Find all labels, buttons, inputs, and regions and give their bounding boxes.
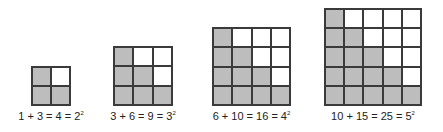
blank-cell (153, 66, 172, 85)
shaded-cell (213, 28, 232, 47)
blank-cell (51, 67, 70, 86)
blank-cell (363, 28, 382, 47)
shaded-cell (363, 67, 382, 86)
equation-label-2: 1 + 3 = 4 = 22 (18, 110, 83, 122)
shaded-cell (32, 67, 51, 86)
shaded-cell (325, 67, 344, 86)
blank-cell (402, 47, 421, 66)
blank-cell (252, 47, 271, 66)
equation-label-3: 3 + 6 = 9 = 32 (110, 110, 175, 122)
exponent: 2 (287, 110, 290, 116)
blank-cell (383, 28, 402, 47)
blank-cell (402, 67, 421, 86)
shaded-cell (153, 86, 172, 105)
equation-label-4: 6 + 10 = 16 = 42 (213, 110, 291, 122)
blank-cell (271, 28, 290, 47)
shaded-cell (133, 86, 152, 105)
shaded-cell (114, 47, 133, 66)
shaded-cell (232, 47, 251, 66)
equation-text: 1 + 3 = 4 = 2 (18, 110, 80, 122)
equation-text: 6 + 10 = 16 = 4 (213, 110, 287, 122)
shaded-cell (51, 86, 70, 105)
shaded-cell (344, 47, 363, 66)
shaded-cell (344, 86, 363, 105)
square-grid-2 (31, 66, 71, 106)
shaded-cell (133, 66, 152, 85)
shaded-cell (344, 67, 363, 86)
blank-cell (232, 28, 251, 47)
exponent: 2 (172, 110, 175, 116)
shaded-cell (325, 86, 344, 105)
blank-cell (133, 47, 152, 66)
shaded-cell (325, 28, 344, 47)
blank-cell (383, 47, 402, 66)
blank-cell (402, 28, 421, 47)
equation-text: 3 + 6 = 9 = 3 (110, 110, 172, 122)
shaded-cell (325, 47, 344, 66)
blank-cell (363, 9, 382, 28)
blank-cell (252, 28, 271, 47)
blank-cell (402, 9, 421, 28)
shaded-cell (363, 86, 382, 105)
shaded-cell (213, 86, 232, 105)
blank-cell (271, 47, 290, 66)
square-grid-5 (324, 8, 422, 106)
square-grid-3 (113, 46, 173, 106)
shaded-cell (383, 67, 402, 86)
shaded-cell (32, 86, 51, 105)
exponent: 2 (80, 110, 83, 116)
equation-text: 10 + 15 = 25 = 5 (331, 110, 411, 122)
exponent: 2 (412, 110, 415, 116)
equation-label-5: 10 + 15 = 25 = 52 (331, 110, 415, 122)
square-grid-4 (212, 27, 291, 106)
blank-cell (383, 9, 402, 28)
shaded-cell (252, 86, 271, 105)
blank-cell (153, 47, 172, 66)
shaded-cell (383, 86, 402, 105)
shaded-cell (114, 86, 133, 105)
shaded-cell (344, 28, 363, 47)
shaded-cell (232, 86, 251, 105)
shaded-cell (325, 9, 344, 28)
blank-cell (344, 9, 363, 28)
shaded-cell (114, 66, 133, 85)
shaded-cell (252, 67, 271, 86)
shaded-cell (213, 67, 232, 86)
blank-cell (271, 67, 290, 86)
shaded-cell (213, 47, 232, 66)
shaded-cell (363, 47, 382, 66)
triangular-squares-diagram: 1 + 3 = 4 = 22 3 + 6 = 9 = 32 6 + 10 = 1… (0, 0, 443, 132)
shaded-cell (232, 67, 251, 86)
shaded-cell (402, 86, 421, 105)
shaded-cell (271, 86, 290, 105)
